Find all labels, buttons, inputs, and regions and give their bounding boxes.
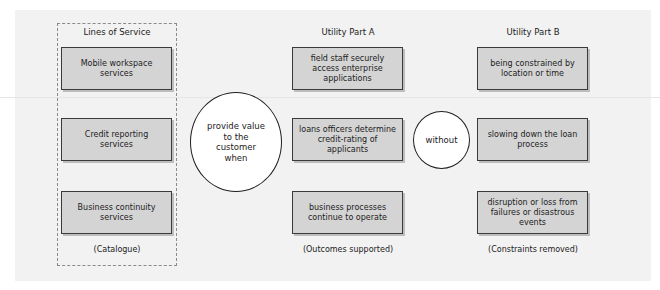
constraint-box-location-time: being constrained by location or time xyxy=(477,47,588,90)
constraints-caption: (Constraints removed) xyxy=(468,245,598,254)
without-circle-text: without xyxy=(426,135,458,146)
outcomes-caption: (Outcomes supported) xyxy=(283,245,413,254)
utility-part-a-title: Utility Part A xyxy=(283,27,413,37)
constraint-box-disruption: disruption or loss from failures or disa… xyxy=(477,191,588,234)
service-box-business-continuity: Business continuity services xyxy=(61,191,172,234)
outcome-box-field-staff: field staff securely access enterprise a… xyxy=(292,47,403,90)
constraint-box-slowing-loan: slowing down the loan process xyxy=(477,118,588,161)
catalogue-caption: (Catalogue) xyxy=(52,245,182,254)
lines-of-service-title: Lines of Service xyxy=(52,27,182,37)
outcome-box-business-processes: business processes continue to operate xyxy=(292,191,403,234)
service-box-credit-reporting: Credit reporting services xyxy=(61,118,172,161)
service-box-mobile-workspace: Mobile workspace services xyxy=(61,47,172,90)
value-circle: provide value to the customer when xyxy=(190,92,282,192)
without-circle: without xyxy=(413,111,470,169)
value-circle-text: provide value to the customer when xyxy=(205,121,267,163)
utility-part-b-title: Utility Part B xyxy=(468,27,598,37)
outcome-box-loans-officers: loans officers determine credit-rating o… xyxy=(292,118,403,161)
